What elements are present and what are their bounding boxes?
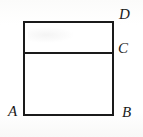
outer-rectangle — [24, 22, 113, 115]
geometry-figure: A B C D — [0, 0, 143, 137]
vertex-label-c: C — [118, 41, 128, 56]
vertex-label-b: B — [122, 105, 131, 120]
vertex-label-d: D — [119, 7, 130, 22]
vertex-label-a: A — [8, 104, 17, 119]
